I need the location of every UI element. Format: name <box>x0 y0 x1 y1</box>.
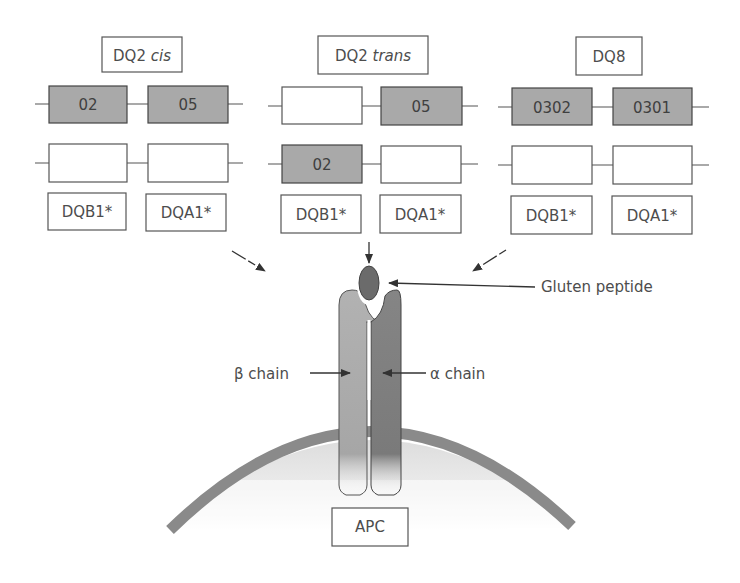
gluten-peptide-label: Gluten peptide <box>541 278 653 296</box>
allele-label: 02 <box>78 96 97 114</box>
alpha-chain <box>371 290 401 495</box>
allele-box-dqb1 <box>282 87 362 124</box>
arrow-dq8-to-molecule <box>473 250 506 271</box>
allele-label: 05 <box>411 98 430 116</box>
allele-box-dqb1 <box>512 146 592 184</box>
beta-chain-label: β chain <box>234 365 289 383</box>
allele-box-dqa1 <box>613 146 692 184</box>
allele-label: 0302 <box>533 99 571 117</box>
apc-label: APC <box>355 518 385 536</box>
gene-label-dqa1: DQA1* <box>627 207 678 225</box>
allele-label: 05 <box>178 96 197 114</box>
haplotype-title: DQ2 trans <box>335 47 411 65</box>
allele-box-dqa1 <box>148 144 228 182</box>
apc-label-box: APC <box>332 508 408 546</box>
haplotype-dq2-cis: DQ2 cis 02 05 DQB1* DQA1* <box>35 37 243 231</box>
gene-label-dqb1: DQB1* <box>62 203 113 221</box>
arrow-cis-to-molecule <box>232 251 265 271</box>
gluten-peptide <box>359 266 379 300</box>
allele-label: 02 <box>312 156 331 174</box>
haplotype-dq8: DQ8 0302 0301 DQB1* DQA1* <box>498 37 709 234</box>
gene-label-dqb1: DQB1* <box>526 207 577 225</box>
allele-label: 0301 <box>633 99 671 117</box>
arrow-peptide-label <box>389 283 535 287</box>
gene-label-dqa1: DQA1* <box>161 204 212 222</box>
alpha-chain-label: α chain <box>430 365 485 383</box>
gene-label-dqa1: DQA1* <box>395 206 446 224</box>
dq-hla-diagram: Gluten peptide β chain α chain APC DQ2 c… <box>0 0 740 583</box>
haplotype-title: DQ2 cis <box>113 47 171 65</box>
allele-box-dqb1 <box>49 144 127 182</box>
haplotype-dq2-trans: DQ2 trans 05 02 DQB1* DQA1* <box>268 36 478 233</box>
haplotype-title: DQ8 <box>593 48 626 66</box>
gene-label-dqb1: DQB1* <box>296 206 347 224</box>
allele-box-dqa1 <box>381 146 461 183</box>
